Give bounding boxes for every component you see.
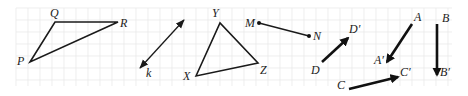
vector-c-cprime: C C′: [337, 65, 411, 92]
transformation-diagram: P Q R k X Y Z M N D D′ A A′ B B′: [0, 0, 468, 96]
label-c: C: [337, 78, 346, 92]
label-b-prime: B′: [440, 65, 450, 79]
triangle-pqr: P Q R: [16, 6, 128, 68]
label-x: X: [182, 69, 191, 83]
label-d-prime: D′: [348, 22, 361, 36]
label-k: k: [146, 66, 152, 80]
grid-background: [16, 8, 452, 86]
line-k: k: [140, 20, 184, 80]
vector-a-aprime: A A′: [373, 10, 422, 67]
label-b: B: [442, 11, 450, 25]
label-d: D: [310, 63, 320, 77]
label-m: M: [244, 16, 256, 30]
label-a: A: [413, 10, 422, 24]
point-m: [257, 21, 261, 25]
label-q: Q: [50, 6, 59, 20]
label-p: P: [16, 54, 25, 68]
label-r: R: [119, 16, 128, 30]
label-a-prime: A′: [373, 53, 384, 67]
label-n: N: [312, 29, 322, 43]
label-c-prime: C′: [400, 65, 411, 79]
label-z: Z: [260, 63, 267, 77]
point-n: [307, 34, 311, 38]
